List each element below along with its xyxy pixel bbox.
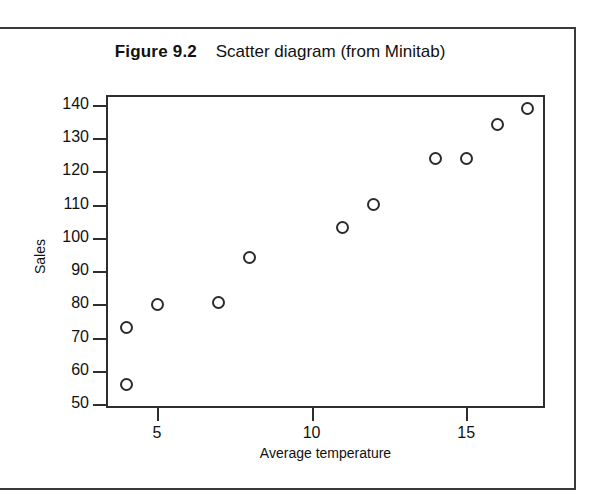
data-point — [151, 298, 164, 311]
data-point — [491, 118, 504, 131]
y-tick-label: 50 — [43, 394, 89, 412]
data-point — [367, 198, 380, 211]
figure-page: Figure 9.2 Scatter diagram (from Minitab… — [0, 0, 599, 499]
y-tick-label: 60 — [43, 361, 89, 379]
y-tick-mark — [93, 371, 106, 373]
data-point — [120, 378, 133, 391]
y-tick-label: 100 — [43, 228, 89, 246]
y-tick-mark — [93, 205, 106, 207]
y-tick-mark — [93, 338, 106, 340]
y-tick-mark — [93, 138, 106, 140]
y-tick-mark — [93, 404, 106, 406]
y-tick-mark — [93, 238, 106, 240]
y-tick-mark — [93, 105, 106, 107]
y-tick-mark — [93, 171, 106, 173]
y-tick-label: 70 — [43, 328, 89, 346]
y-tick-mark — [93, 271, 106, 273]
scatter-chart: Sales 5060708090100110120130140 51015 Av… — [0, 0, 599, 499]
data-point — [120, 321, 133, 334]
y-tick-label: 90 — [43, 261, 89, 279]
x-tick-mark — [157, 408, 159, 421]
x-tick-label: 5 — [135, 424, 179, 442]
x-axis-title: Average temperature — [106, 445, 545, 461]
x-tick-mark — [466, 408, 468, 421]
x-tick-label: 15 — [444, 424, 488, 442]
x-tick-mark — [312, 408, 314, 421]
y-tick-label: 110 — [43, 195, 89, 213]
y-tick-label: 120 — [43, 161, 89, 179]
x-tick-label: 10 — [290, 424, 334, 442]
plot-frame — [106, 95, 545, 408]
y-tick-mark — [93, 304, 106, 306]
data-point — [429, 152, 442, 165]
y-tick-label: 140 — [43, 95, 89, 113]
y-tick-label: 130 — [43, 128, 89, 146]
y-tick-label: 80 — [43, 294, 89, 312]
data-point — [460, 152, 473, 165]
